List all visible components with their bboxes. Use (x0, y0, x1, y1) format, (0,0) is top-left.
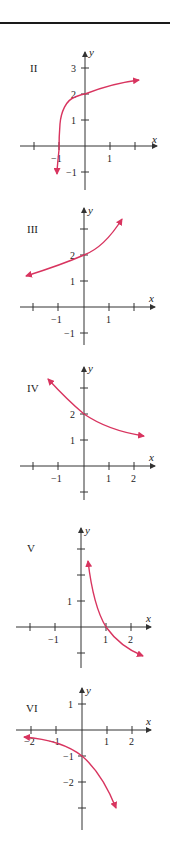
y-axis-label: y (87, 362, 93, 374)
tick-label: 1 (106, 473, 111, 484)
graph-label: VI (26, 702, 38, 714)
tick-label: 1 (107, 153, 112, 164)
tick-label: 3 (71, 63, 76, 74)
y-axis-label: y (88, 46, 94, 58)
tick-label: 1 (71, 115, 76, 126)
tick-label: −1 (66, 167, 77, 178)
graph-vi: VI x y −2 −1 1 2 1 −1 −2 (16, 684, 151, 830)
tick-label: 1 (70, 435, 75, 446)
y-axis-label: y (87, 204, 93, 216)
tick-label: −2 (63, 777, 74, 788)
tick-label: 1 (104, 736, 109, 747)
tick-label: −1 (51, 473, 62, 484)
curve (106, 627, 143, 656)
tick-label: −1 (48, 634, 59, 645)
tick-label: 2 (128, 634, 133, 645)
y-axis-label: y (85, 684, 91, 696)
curve (88, 561, 106, 627)
graph-iv: IV x y −1 1 2 2 1 (20, 362, 155, 500)
tick-label: 1 (106, 314, 111, 325)
x-axis-label: x (145, 612, 151, 624)
tick-label: 1 (103, 634, 108, 645)
x-axis-label: x (145, 715, 151, 727)
tick-label: 1 (70, 276, 75, 287)
graph-label: V (27, 542, 35, 554)
graph-label: IV (27, 382, 39, 394)
curve (82, 756, 116, 808)
graph-label: III (27, 223, 38, 235)
x-axis-label: x (148, 451, 154, 463)
tick-label: −1 (51, 314, 62, 325)
curve (48, 379, 84, 414)
tick-label: −1 (64, 328, 75, 339)
x-axis-label: x (151, 133, 157, 145)
curve (84, 219, 122, 255)
x-axis-label: x (148, 292, 154, 304)
tick-label: 1 (67, 596, 72, 607)
curve (84, 414, 144, 436)
graphs-canvas: II x y −1 1 3 2 1 −1 III x y (0, 0, 170, 850)
tick-label: 2 (131, 473, 136, 484)
tick-label: 1 (68, 699, 73, 710)
tick-label: 2 (70, 409, 75, 420)
curve (26, 255, 84, 276)
graph-ii: II x y −1 1 3 2 1 −1 (20, 46, 157, 190)
y-axis-label: y (84, 524, 90, 536)
graph-label: II (30, 62, 38, 74)
tick-label: −1 (51, 153, 62, 164)
curve-tail (57, 124, 60, 174)
tick-label: 2 (129, 736, 134, 747)
tick-label: −1 (63, 751, 74, 762)
graph-iii: III x y −1 1 2 1 −1 (20, 204, 155, 345)
graph-v: V x y −1 1 2 1 (16, 524, 151, 668)
